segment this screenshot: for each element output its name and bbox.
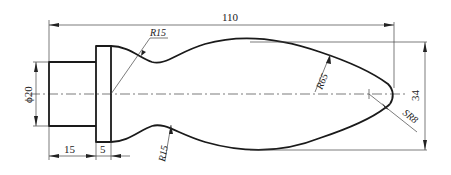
dim-15-label: 15 [64,143,76,155]
dim-34-label: 34 [409,90,421,102]
dim-sr8-label: SR8 [401,107,420,126]
dim-110-label: 110 [222,11,239,23]
dim-r15-bottom-label: R15 [156,145,170,164]
dim-overall-length: 110 [49,11,394,88]
dim-r65: R65 [313,55,331,92]
dim-r15-bottom: R15 [156,125,173,163]
dim-phi20-label: ϕ20 [22,86,34,103]
dim-r15-top: R15 [111,27,168,94]
dim-r65-label: R65 [313,72,330,92]
dim-5-label: 5 [100,143,106,155]
dim-r15-top-label: R15 [149,27,166,38]
handle-technical-drawing: 110 34 ϕ20 15 5 R15 [0,0,451,175]
dim-shank-collar-lengths: 15 5 [49,126,130,160]
body-profile-bottom [111,104,390,150]
